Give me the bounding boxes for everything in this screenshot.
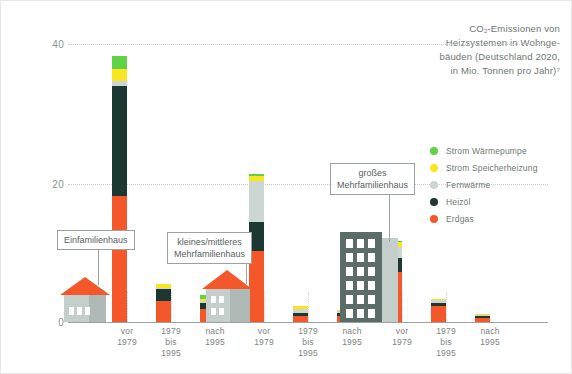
legend-item-strom-speicherheizung[interactable]: Strom Speicherheizung xyxy=(430,159,570,176)
x-tick-g2-1979-bis-1995: 1979bis1995 xyxy=(286,326,330,359)
x-tick-g3-vor-1979: vor1979 xyxy=(380,326,424,348)
legend-item-label: Fernwärme xyxy=(446,180,490,190)
bar-g2-1979-bis-1995[interactable] xyxy=(293,306,308,322)
callout-grosses-mehrfamilienhaus: großes Mehrfamilienhaus xyxy=(330,163,415,195)
large-apartment-building-icon xyxy=(336,228,402,322)
legend-swatch-icon xyxy=(430,181,438,189)
bar-segment-heizoel xyxy=(156,289,171,301)
bar-segment-waermepumpe xyxy=(112,56,127,69)
bar-g3-nach-1995[interactable] xyxy=(475,314,490,322)
legend-item-label: Erdgas xyxy=(446,214,474,224)
legend-item-label: Heizöl xyxy=(446,197,471,207)
bar-segment-speicher xyxy=(112,69,127,82)
separator-g2-c1 xyxy=(264,292,265,322)
x-tick-g3-nach-1995: nach1995 xyxy=(468,326,512,348)
legend-swatch-icon xyxy=(430,164,438,172)
legend-item-strom-w-rmepumpe[interactable]: Strom Wärmepumpe xyxy=(430,142,570,159)
separator-g3-c1 xyxy=(402,292,403,322)
x-tick-g2-vor-1979: vor1979 xyxy=(242,326,286,348)
bar-g1-1979-bis-1995[interactable] xyxy=(156,284,171,322)
callout-kleines-mittleres-mehrfamilienhaus: kleines/mittleres Mehrfamilienhaus xyxy=(167,232,252,264)
x-tick-g1-1979-bis-1995: 1979bis1995 xyxy=(149,326,193,359)
separator-g1-c2 xyxy=(171,292,172,322)
bar-segment-fernwaerme xyxy=(249,181,264,222)
legend-swatch-icon xyxy=(430,215,438,223)
legend-swatch-icon xyxy=(430,198,438,206)
co2-emissions-stacked-bar-chart: CO₂-Emissionen von Heizsystemen in Wohng… xyxy=(0,0,572,374)
chart-legend: Strom WärmepumpeStrom SpeicherheizungFer… xyxy=(430,142,570,227)
bar-segment-heizoel xyxy=(112,86,127,196)
x-tick-g1-vor-1979: vor1979 xyxy=(105,326,149,348)
bar-segment-erdgas xyxy=(293,316,308,322)
bar-g3-1979-bis-1995[interactable] xyxy=(431,299,446,322)
callout-leader-3 xyxy=(389,192,390,242)
legend-item-label: Strom Speicherheizung xyxy=(446,163,538,173)
bar-segment-erdgas xyxy=(156,301,171,322)
gridline-40 xyxy=(68,44,548,45)
legend-swatch-icon xyxy=(430,147,438,155)
y-tick-label-40: 40 xyxy=(36,39,64,50)
x-tick-g2-nach-1995: nach1995 xyxy=(330,326,374,348)
x-axis-baseline xyxy=(68,322,548,323)
callout-einfamilienhaus: Einfamilienhaus xyxy=(57,230,135,250)
legend-item-fernw-rme[interactable]: Fernwärme xyxy=(430,176,570,193)
separator-g2-c2 xyxy=(308,292,309,322)
separator-g1-c1 xyxy=(127,292,128,322)
bar-segment-erdgas xyxy=(475,318,490,322)
separator-g3-c2 xyxy=(446,292,447,322)
y-tick-label-20: 20 xyxy=(36,179,64,190)
x-tick-g1-nach-1995: nach1995 xyxy=(193,326,237,348)
bar-segment-erdgas xyxy=(431,306,446,322)
legend-item-label: Strom Wärmepumpe xyxy=(446,146,527,156)
single-family-house-icon xyxy=(60,274,118,322)
legend-item-heiz-l[interactable]: Heizöl xyxy=(430,193,570,210)
x-axis-labels: vor1979 1979bis1995 nach1995 vor1979 197… xyxy=(68,326,548,374)
small-apartment-house-icon xyxy=(200,264,260,322)
legend-item-erdgas[interactable]: Erdgas xyxy=(430,210,570,227)
x-tick-g3-1979-bis-1995: 1979bis1995 xyxy=(424,326,468,359)
